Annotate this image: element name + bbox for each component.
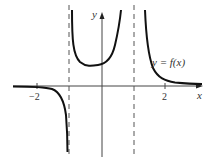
y-axis-label: y — [91, 8, 97, 20]
curve-right-branch — [145, 10, 202, 84]
curve-left-branch — [13, 87, 68, 153]
y-axis-arrow-icon — [100, 12, 105, 19]
x-axis-label: x — [196, 89, 202, 101]
curve-label: y = f(x) — [151, 56, 185, 69]
function-graph: y x y = f(x) −2 2 — [0, 0, 213, 157]
tick-label-neg2: −2 — [29, 91, 40, 102]
tick-label-pos2: 2 — [162, 91, 167, 102]
